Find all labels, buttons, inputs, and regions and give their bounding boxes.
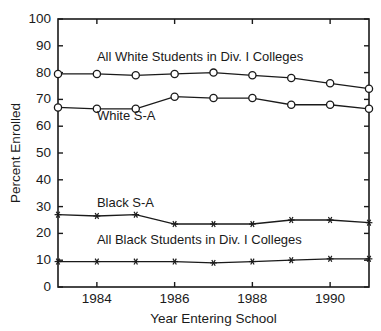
data-point-marker (327, 80, 334, 87)
series-annotation: White S-A (97, 108, 156, 123)
y-tick-label: 60 (36, 118, 51, 133)
y-tick-label: 10 (36, 252, 51, 267)
series-0 (54, 69, 372, 92)
series-annotation: All White Students in Div. I Colleges (97, 49, 304, 64)
y-tick-label: 100 (28, 11, 51, 26)
series-annotation: All Black Students in Div. I Colleges (97, 232, 302, 247)
line-chart: 01020304050607080901001984198619881990 A… (0, 0, 381, 331)
data-point-marker (365, 85, 372, 92)
data-point-marker (249, 94, 256, 101)
data-point-marker (249, 72, 256, 79)
data-point-marker (327, 101, 334, 108)
y-tick-label: 0 (43, 279, 51, 294)
data-point-marker (288, 74, 295, 81)
data-point-marker (171, 70, 178, 77)
x-axis-title: Year Entering School (150, 311, 276, 326)
y-tick-label: 40 (36, 172, 51, 187)
series-2 (55, 212, 373, 227)
data-point-marker (365, 105, 372, 112)
data-point-marker (210, 94, 217, 101)
series-3 (55, 256, 373, 266)
y-axis-title: Percent Enrolled (8, 103, 23, 203)
x-tick-label: 1984 (82, 291, 113, 306)
x-tick-label: 1990 (315, 291, 345, 306)
y-tick-label: 50 (36, 145, 51, 160)
series-annotation: Black S-A (97, 195, 154, 210)
data-point-marker (132, 72, 139, 79)
chart-figure: 01020304050607080901001984198619881990 A… (0, 0, 381, 331)
data-point-marker (288, 101, 295, 108)
data-point-marker (210, 69, 217, 76)
chart-annotations: All White Students in Div. I CollegesWhi… (97, 49, 304, 248)
y-tick-label: 80 (36, 65, 51, 80)
data-point-marker (93, 70, 100, 77)
y-tick-label: 30 (36, 199, 51, 214)
data-point-marker (54, 104, 61, 111)
y-tick-label: 70 (36, 91, 51, 106)
data-point-marker (171, 93, 178, 100)
y-tick-label: 20 (36, 225, 51, 240)
y-tick-label: 90 (36, 38, 51, 53)
data-point-marker (54, 70, 61, 77)
x-tick-label: 1986 (160, 291, 190, 306)
x-tick-label: 1988 (237, 291, 267, 306)
